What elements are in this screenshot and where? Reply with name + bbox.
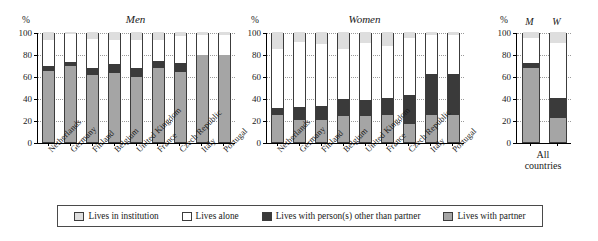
legend-label-partner: Lives with partner [457,211,525,221]
y-tick-label: 20 [240,117,261,126]
bar-segment-inst [360,32,371,43]
bar-segment-inst [316,32,327,44]
y-tick-label: 80 [490,51,511,60]
y-tick-mark [34,99,37,100]
bar-segment-inst [175,32,186,36]
legend-swatch-partner [443,212,453,221]
bar-segment-partner [43,71,54,143]
bar-segment-other [175,63,186,72]
y-tick-mark [513,121,516,122]
legend-item-partner: Lives with partner [443,211,525,221]
y-tick-mark [34,33,37,34]
legend-item-alone: Lives alone [182,211,239,221]
y-tick-mark [513,77,516,78]
y-tick-label: 60 [240,73,261,82]
legend-label-alone: Lives alone [196,211,239,221]
chart-legend: Lives in institution Lives alone Lives w… [57,205,543,227]
bar-czech-republic [174,33,187,143]
bar-segment-inst [219,32,230,35]
bar-segment-other [550,98,566,118]
bar-segment-inst [43,32,54,40]
bar-portugal [218,33,231,143]
legend-item-other: Lives with person(s) other than partner [262,211,421,221]
axis-unit-label: % [251,15,259,25]
bar-segment-other [65,62,76,66]
y-tick-mark [34,121,37,122]
bar-segment-inst [65,32,76,34]
y-tick-mark [263,77,266,78]
bar-m [522,33,540,143]
bar-segment-alone [175,36,186,62]
all-countries-label: Allcountries [503,149,583,171]
y-tick-label: 80 [240,51,261,60]
bar-segment-other [316,106,327,120]
bar-segment-alone [109,40,120,64]
bar-czech-republic [403,33,416,143]
y-tick-mark [263,99,266,100]
legend-label-institution: Lives in institution [88,211,158,221]
y-tick-mark [263,121,266,122]
bar-netherlands [271,33,284,143]
y-tick-mark [34,143,37,144]
bar-segment-other [43,66,54,70]
legend-swatch-alone [182,212,192,221]
bar-segment-other [272,108,283,115]
bar-segment-alone [550,43,566,98]
bar-segment-other [382,98,393,115]
y-tick-label: 40 [240,95,261,104]
bar-segment-partner [523,68,539,142]
bar-segment-inst [550,32,566,43]
bar-segment-inst [109,32,120,40]
bar-segment-partner [219,55,230,142]
y-tick-mark [513,99,516,100]
y-tick-mark [513,55,516,56]
y-tick-mark [263,143,266,144]
y-tick-label: 0 [490,139,511,148]
plot-area-all-countries [516,33,571,144]
bar-portugal [447,33,460,143]
bar-segment-alone [426,35,437,74]
y-tick-mark [263,55,266,56]
bar-segment-inst [426,32,437,35]
bar-segment-alone [338,49,349,100]
x-tick-mark [530,143,531,146]
y-tick-mark [34,55,37,56]
panel-title-women: Women [266,13,463,25]
y-tick-label: 80 [11,51,32,60]
bar-segment-inst [404,32,415,38]
bar-segment-inst [338,32,349,49]
bar-segment-alone [153,40,164,61]
bar-segment-other [153,61,164,69]
bar-segment-partner [550,118,566,142]
bar-segment-other [448,74,459,115]
bar-segment-other [426,74,437,115]
bar-segment-other [523,63,539,69]
legend-label-other: Lives with person(s) other than partner [276,211,421,221]
bar-segment-other [338,99,349,116]
axis-unit-label: % [22,15,30,25]
bar-segment-inst [523,32,539,38]
bar-segment-alone [43,40,54,66]
bar-segment-inst [382,32,393,46]
bar-segment-inst [294,32,305,42]
y-tick-mark [513,143,516,144]
y-tick-label: 0 [240,139,261,148]
sex-label-m: M [518,16,542,27]
bar-segment-alone [448,35,459,74]
y-tick-mark [263,33,266,34]
legend-item-institution: Lives in institution [74,211,158,221]
bar-segment-alone [219,35,230,55]
bar-segment-partner [272,115,283,143]
bar-segment-alone [294,42,305,107]
bar-segment-partner [448,115,459,143]
bar-netherlands [42,33,55,143]
y-tick-label: 60 [490,73,511,82]
bar-segment-inst [153,32,164,40]
y-tick-label: 20 [490,117,511,126]
bar-segment-alone [131,40,142,69]
bar-segment-inst [131,32,142,40]
y-tick-label: 100 [490,29,511,38]
legend-swatch-institution [74,212,84,221]
y-tick-mark [34,77,37,78]
bar-segment-alone [316,44,327,106]
